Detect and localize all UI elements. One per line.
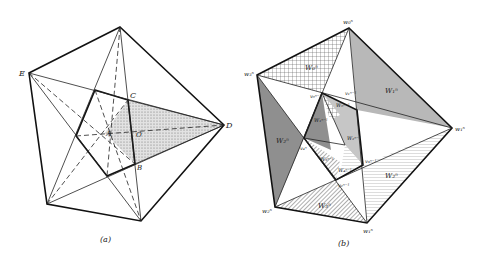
label-inner-bottom: v₂ⁿ⁻¹ — [338, 182, 350, 188]
region-label-bottom: W₃ⁿ — [318, 202, 331, 210]
label-a: A — [105, 130, 111, 138]
label-right-vertex: w₁ⁿ — [455, 125, 466, 132]
region-label-inner-5: W₄ⁿ⁻¹ — [338, 167, 352, 173]
region-label-top-right: W₁ⁿ — [385, 87, 398, 95]
region-label-left: W₂ⁿ — [276, 137, 289, 145]
region-label-top-left: W₀ⁿ — [305, 64, 318, 72]
figure: E C D B A O (a) — [0, 0, 479, 261]
label-inner-top-left: v₀ⁿ⁻¹ — [310, 93, 322, 99]
region-label-inner-2: W₁ⁿ⁻¹ — [314, 117, 328, 123]
label-inner-top: v₁ⁿ⁻¹ — [345, 90, 357, 96]
label-o: O — [136, 131, 142, 139]
label-left-vertex: w₃ⁿ — [244, 70, 255, 77]
panel-b: w₀ⁿ w₃ⁿ w₁ⁿ w₂ⁿ w₁ⁿ v₀ⁿ⁻¹ v₁ⁿ⁻¹ v₄ⁿ v₂ⁿ⁻… — [244, 18, 466, 248]
label-bottom-left-vertex: w₂ⁿ — [262, 207, 273, 214]
region-label-bottom-right: W₂ⁿ — [385, 172, 398, 180]
region-label-inner-3: W₂ⁿ⁻¹ — [347, 135, 361, 141]
label-bottom-vertex: w₁ⁿ — [363, 227, 374, 234]
label-e: E — [18, 69, 25, 78]
label-top-vertex: w₀ⁿ — [343, 18, 354, 25]
label-c: C — [130, 91, 136, 100]
caption-a: (a) — [100, 235, 111, 244]
region-label-inner-4: W₃ⁿ⁻¹ — [320, 156, 334, 162]
panel-a: E C D B A O (a) — [18, 27, 233, 244]
caption-b: (b) — [338, 239, 349, 248]
label-inner-left: v₄ⁿ — [300, 145, 307, 151]
label-inner-right: v₃ⁿ⁻¹ — [365, 158, 377, 164]
label-d: D — [225, 121, 233, 130]
label-b: B — [136, 164, 142, 172]
region-label-inner-1: W₀ⁿ⁻¹ — [336, 102, 350, 108]
